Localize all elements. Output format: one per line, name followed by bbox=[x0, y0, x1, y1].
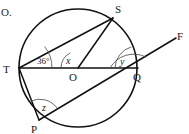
point-label-T: T bbox=[3, 63, 10, 75]
point-label-Q: Q bbox=[133, 71, 141, 83]
segment-PF bbox=[39, 38, 176, 120]
segment-TP bbox=[19, 68, 39, 120]
angle-label-z: z bbox=[41, 102, 46, 113]
point-label-P: P bbox=[31, 123, 37, 134]
geometry-diagram-screenshot: S T O Q P F 36° x y z O. bbox=[0, 0, 189, 134]
angle-label-y: y bbox=[119, 56, 125, 67]
segment-SO bbox=[78, 18, 113, 68]
point-label-S: S bbox=[115, 3, 121, 15]
angle-label-x: x bbox=[65, 55, 71, 66]
point-label-F: F bbox=[177, 30, 183, 42]
point-label-O: O bbox=[69, 71, 77, 83]
angle-label-36-degrees: 36° bbox=[37, 56, 50, 66]
circle-geometry-figure: S T O Q P F 36° x y z O. bbox=[0, 0, 189, 134]
corner-note-text: O. bbox=[1, 6, 12, 18]
